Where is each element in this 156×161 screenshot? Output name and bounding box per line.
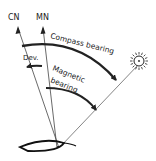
boat-hull-icon xyxy=(20,141,76,151)
mn-label: MN xyxy=(36,13,49,22)
compass-bearing-diagram: CN MN Compass bearing Dev. Magnetic bear… xyxy=(0,0,156,161)
sun-icon xyxy=(130,52,148,70)
deviation-arc xyxy=(27,66,42,67)
magnetic-north-arrow-icon xyxy=(41,26,46,34)
compass-north-arrow-icon xyxy=(16,26,21,34)
pivot-point xyxy=(57,146,59,148)
deviation-label: Dev. xyxy=(23,54,39,62)
cn-label: CN xyxy=(8,13,20,22)
